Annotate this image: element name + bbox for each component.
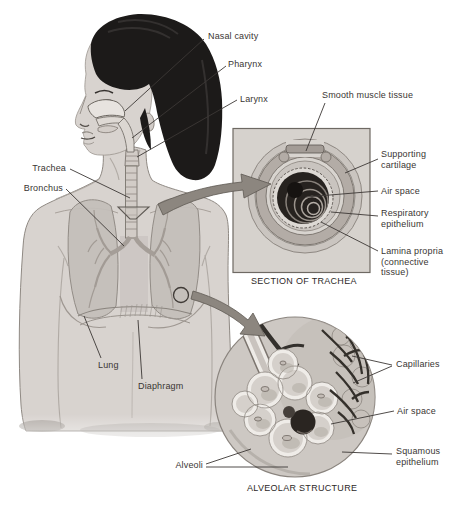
label-capillaries: Capillaries xyxy=(396,359,440,370)
label-respiratory-epithelium: Respiratory epithelium xyxy=(381,208,437,229)
label-squamous-epithelium: Squamous epithelium xyxy=(396,446,454,467)
label-lamina-propria: Lamina propria (connective tissue) xyxy=(381,246,445,278)
caption-alveolar-structure: ALVEOLAR STRUCTURE xyxy=(247,483,357,493)
left-lung xyxy=(68,200,118,318)
label-alveolar-air-space: Air space xyxy=(397,406,436,417)
figure-bottom-fade xyxy=(0,414,256,460)
smooth-muscle-band xyxy=(286,145,324,153)
label-bronchus: Bronchus xyxy=(17,183,63,194)
caption-section-of-trachea: SECTION OF TRACHEA xyxy=(251,276,357,286)
label-smooth-muscle-tissue: Smooth muscle tissue xyxy=(322,90,413,101)
label-nasal-cavity: Nasal cavity xyxy=(208,31,258,42)
respiratory-system-diagram: Nasal cavity Pharynx Larynx Trachea Bron… xyxy=(0,0,466,518)
label-lung: Lung xyxy=(98,360,119,371)
trachea-section-inset xyxy=(233,129,370,273)
label-trachea: Trachea xyxy=(20,163,66,174)
label-alveoli: Alveoli xyxy=(157,460,203,471)
label-diaphragm: Diaphragm xyxy=(138,381,183,392)
label-pharynx: Pharynx xyxy=(228,59,262,70)
label-trachea-air-space: Air space xyxy=(381,186,420,197)
label-supporting-cartilage: Supporting cartilage xyxy=(381,149,433,170)
label-larynx: Larynx xyxy=(240,94,268,105)
